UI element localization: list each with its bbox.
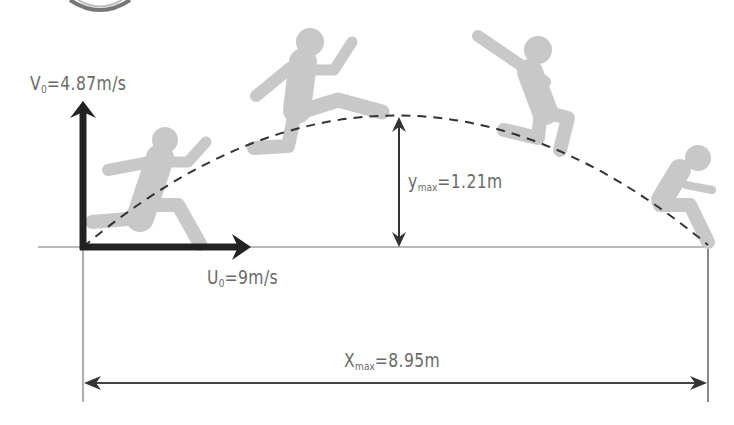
falling-figure-icon bbox=[478, 36, 568, 150]
ymax-arrow bbox=[392, 117, 406, 247]
long-jump-diagram: V0=4.87m/s U0=9m/s ymax=1.21m Xmax=8.95m bbox=[0, 0, 734, 425]
xmax-label: Xmax=8.95m bbox=[344, 349, 440, 373]
ymax-label: ymax=1.21m bbox=[408, 170, 503, 194]
v0-label: V0=4.87m/s bbox=[30, 72, 126, 96]
rising-figure-icon bbox=[254, 28, 382, 148]
logo-circle-icon bbox=[70, 0, 130, 10]
xmax-arrow bbox=[84, 376, 707, 390]
u0-label: U0=9m/s bbox=[207, 266, 278, 290]
